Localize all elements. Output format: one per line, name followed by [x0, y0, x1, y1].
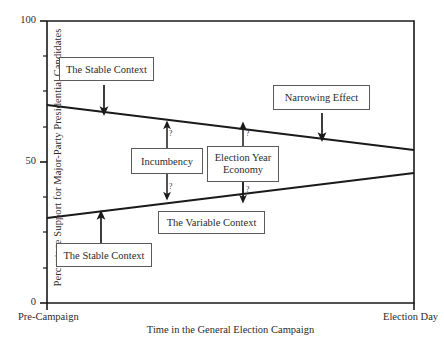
election-year-economy-line-2: Economy — [223, 164, 263, 177]
chart-figure: 100 50 0 Pre-Campaign Election Day Perce… — [0, 0, 444, 341]
y-tick-label-0: 0 — [8, 296, 36, 307]
y-axis-major-ticks — [40, 21, 47, 303]
series-line-leading — [47, 105, 414, 150]
annotation-box-stable-context-top[interactable]: The Stable Context — [59, 57, 154, 81]
annotation-box-narrowing-effect[interactable]: Narrowing Effect — [273, 85, 370, 110]
x-axis-ticks — [47, 303, 414, 310]
question-marker-economy-up: ? — [246, 129, 249, 138]
annotation-box-election-year-economy[interactable]: Election Year Economy — [207, 146, 279, 182]
question-marker-incumbency-up: ? — [169, 129, 172, 138]
question-marker-economy-down: ? — [246, 185, 249, 194]
annotation-box-incumbency[interactable]: Incumbency — [131, 148, 203, 174]
x-tick-label-pre-campaign: Pre-Campaign — [18, 311, 79, 322]
x-axis-title: Time in the General Election Campaign — [47, 324, 414, 335]
y-tick-label-100: 100 — [8, 14, 36, 25]
annotation-box-variable-context[interactable]: The Variable Context — [158, 211, 265, 234]
question-marker-incumbency-down: ? — [169, 182, 172, 191]
x-tick-label-election-day: Election Day — [383, 311, 438, 322]
y-tick-label-50: 50 — [8, 155, 36, 166]
election-year-economy-line-1: Election Year — [215, 152, 272, 165]
annotation-box-stable-context-bottom[interactable]: The Stable Context — [56, 243, 152, 267]
